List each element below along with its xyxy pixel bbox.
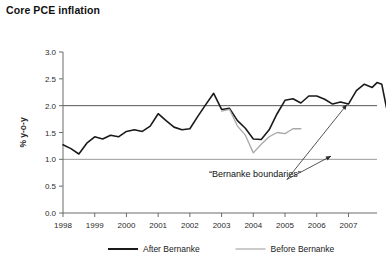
y-axis-tick-label: 3.0 (45, 48, 57, 57)
x-axis-tick-label: 2007 (340, 221, 358, 230)
axes-group (63, 52, 377, 213)
y-axis-tick-label: 2.0 (45, 102, 57, 111)
series-line-after-bernanke (63, 83, 386, 154)
x-axis-tick-label: 2004 (244, 221, 262, 230)
legend-label-after-bernanke: After Bernanke (143, 244, 200, 254)
y-axis-tick-label: 1.0 (45, 155, 57, 164)
y-axis-title: % y-o-y (18, 117, 28, 148)
y-axis-ticks-group: 0.00.51.01.52.02.53.0 (45, 48, 63, 218)
y-axis-tick-label: 0.0 (45, 209, 57, 218)
y-axis-label-group: % y-o-y (18, 117, 28, 148)
chart-container: Core PCE inflation 0.00.51.01.52.02.53.0… (0, 0, 386, 269)
x-axis-ticks-group: 1998199920002001200220032004200520062007 (54, 213, 358, 230)
x-axis-tick-label: 2005 (276, 221, 294, 230)
y-axis-tick-label: 1.5 (45, 129, 57, 138)
data-series-group (63, 83, 386, 154)
y-axis-tick-label: 0.5 (45, 182, 57, 191)
y-axis-tick-label: 2.5 (45, 75, 57, 84)
legend-label-before-bernanke: Before Bernanke (271, 244, 335, 254)
x-axis-tick-label: 2000 (118, 221, 136, 230)
x-axis-tick-label: 2002 (181, 221, 199, 230)
arrow-to-upper-boundary (287, 105, 347, 180)
bernanke-boundaries-annotation: “Bernanke boundaries” (209, 169, 301, 179)
x-axis-tick-label: 1999 (86, 221, 104, 230)
chart-plot-svg: 0.00.51.01.52.02.53.0 199819992000200120… (0, 0, 386, 269)
reference-lines-group (63, 106, 377, 160)
legend-group: After BernankeBefore Bernanke (108, 244, 335, 254)
x-axis-tick-label: 1998 (54, 221, 72, 230)
annotations-group: “Bernanke boundaries” (209, 105, 347, 180)
x-axis-tick-label: 2006 (308, 221, 326, 230)
x-axis-tick-label: 2003 (213, 221, 231, 230)
x-axis-tick-label: 2001 (149, 221, 167, 230)
